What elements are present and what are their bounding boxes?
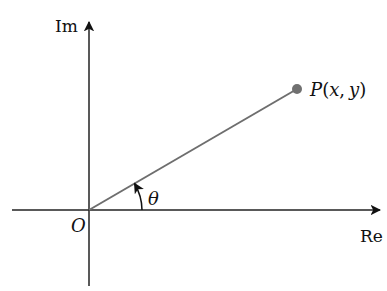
point-close-paren: ) xyxy=(359,79,366,100)
point-open-paren: ( xyxy=(322,79,329,100)
point-p xyxy=(292,84,302,94)
origin-label: O xyxy=(71,215,86,236)
angle-arc xyxy=(135,184,143,211)
point-name: P xyxy=(309,79,323,100)
point-comma: , xyxy=(339,79,345,100)
y-axis-label: Im xyxy=(55,16,78,36)
point-x: x xyxy=(329,79,339,100)
vector-op xyxy=(89,89,297,210)
complex-plane-diagram: Im Re O θ P(x,y) xyxy=(0,0,387,291)
point-label: P(x,y) xyxy=(309,79,366,100)
angle-label: θ xyxy=(148,188,159,209)
x-axis-label: Re xyxy=(360,226,383,246)
